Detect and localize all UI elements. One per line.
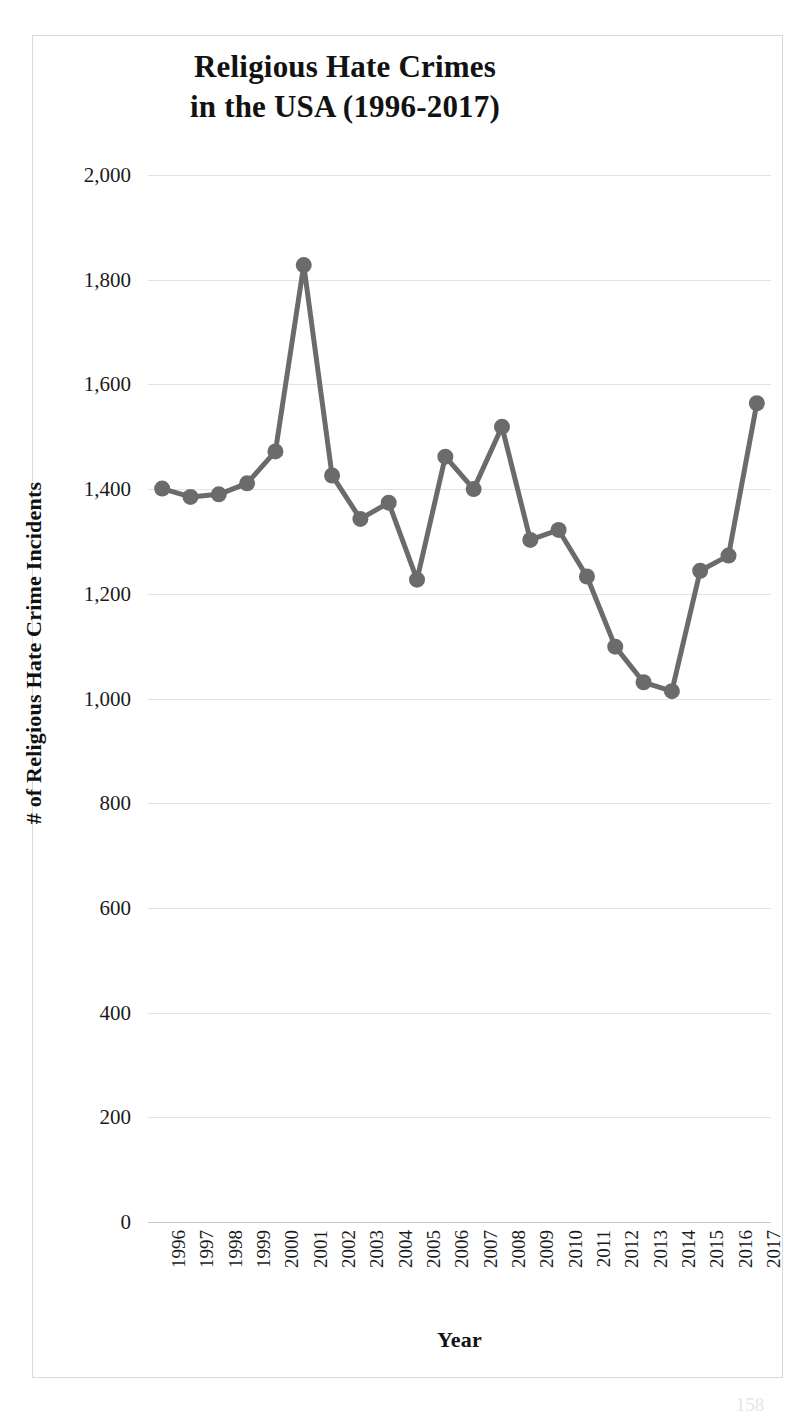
x-tick-label: 2007 (481, 1230, 500, 1322)
data-point-marker (749, 395, 765, 411)
y-tick-label: 400 (11, 1003, 131, 1024)
x-tick-label: 1998 (226, 1230, 245, 1322)
x-tick-label: 1996 (169, 1230, 188, 1322)
plot-area (148, 175, 771, 1222)
data-point-marker (324, 467, 340, 483)
y-tick-label: 1,000 (11, 689, 131, 710)
y-tick-label: 2,000 (11, 165, 131, 186)
x-tick-label: 1997 (197, 1230, 216, 1322)
data-point-marker (154, 481, 170, 497)
x-tick-label: 2010 (566, 1230, 585, 1322)
x-tick-label: 2011 (594, 1230, 613, 1322)
data-point-marker (664, 683, 680, 699)
y-tick-label: 200 (11, 1107, 131, 1128)
data-point-marker (636, 674, 652, 690)
x-axis-tick-labels: 1996199719981999200020012002200320042005… (148, 1230, 771, 1322)
y-tick-label: 1,600 (11, 374, 131, 395)
data-point-marker (579, 569, 595, 585)
y-tick-label: 1,800 (11, 270, 131, 291)
x-tick-label: 2014 (679, 1230, 698, 1322)
data-point-marker (607, 639, 623, 655)
x-tick-label: 2015 (707, 1230, 726, 1322)
page-number: 158 (700, 1394, 800, 1416)
x-tick-label: 2005 (424, 1230, 443, 1322)
x-tick-label: 2009 (537, 1230, 556, 1322)
x-tick-label: 2000 (282, 1230, 301, 1322)
data-point-marker (494, 419, 510, 435)
x-axis-line (148, 1222, 771, 1223)
x-tick-label: 2006 (452, 1230, 471, 1322)
x-tick-label: 2004 (396, 1230, 415, 1322)
data-point-marker (522, 532, 538, 548)
data-point-marker (239, 475, 255, 491)
data-point-marker (296, 257, 312, 273)
data-point-marker (352, 511, 368, 527)
chart-title-line-2: in the USA (1996-2017) (110, 87, 580, 127)
x-axis-title: Year (148, 1327, 771, 1353)
x-tick-label: 2013 (651, 1230, 670, 1322)
y-tick-label: 800 (11, 793, 131, 814)
y-axis-tick-labels: 02004006008001,0001,2001,4001,6001,8002,… (0, 175, 131, 1222)
x-tick-label: 2008 (509, 1230, 528, 1322)
y-tick-label: 0 (11, 1212, 131, 1233)
data-point-marker (211, 486, 227, 502)
data-point-marker (551, 522, 567, 538)
y-tick-label: 1,200 (11, 584, 131, 605)
y-tick-label: 1,400 (11, 479, 131, 500)
chart-title: Religious Hate Crimes in the USA (1996-2… (110, 47, 580, 127)
data-point-marker (409, 572, 425, 588)
x-tick-label: 2017 (764, 1230, 783, 1322)
x-tick-label: 1999 (254, 1230, 273, 1322)
data-point-marker (692, 563, 708, 579)
data-point-marker (437, 449, 453, 465)
data-point-marker (182, 489, 198, 505)
y-tick-label: 600 (11, 898, 131, 919)
line-series (148, 175, 771, 1222)
data-point-marker (466, 481, 482, 497)
data-point-marker (267, 443, 283, 459)
x-tick-label: 2003 (367, 1230, 386, 1322)
chart-title-line-1: Religious Hate Crimes (110, 47, 580, 87)
data-point-marker (381, 495, 397, 511)
x-tick-label: 2012 (622, 1230, 641, 1322)
x-tick-label: 2002 (339, 1230, 358, 1322)
chart-page: Religious Hate Crimes in the USA (1996-2… (0, 0, 812, 1418)
x-tick-label: 2001 (311, 1230, 330, 1322)
x-tick-label: 2016 (736, 1230, 755, 1322)
data-point-marker (721, 548, 737, 564)
